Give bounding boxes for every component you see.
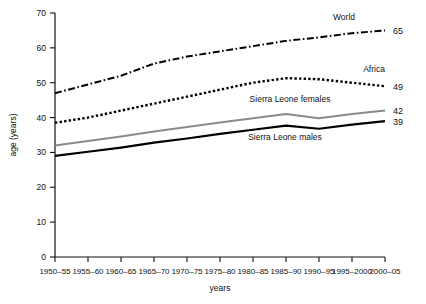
series-label-africa: Africa [363, 64, 385, 74]
y-tick-label: 30 [37, 147, 47, 157]
y-tick-label: 70 [37, 8, 47, 18]
y-axis-title: age (years) [8, 113, 18, 156]
x-tick-label: 1965–70 [138, 267, 170, 276]
y-tick-label: 10 [37, 217, 47, 227]
x-tick-label: 1950–55 [39, 267, 71, 276]
x-tick-label: 2000–05 [369, 267, 401, 276]
end-value-sierra-leone-males: 39 [393, 117, 403, 127]
x-tick-label: 1990–95 [303, 267, 335, 276]
x-tick-label: 1955–60 [72, 267, 104, 276]
y-tick-label: 40 [37, 113, 47, 123]
y-tick-label: 0 [41, 252, 46, 262]
y-tick-label: 20 [37, 182, 47, 192]
end-value-world: 65 [393, 26, 403, 36]
end-value-sierra-leone-females: 42 [393, 106, 403, 116]
y-tick-label: 50 [37, 78, 47, 88]
series-label-sierra-leone-females: Sierra Leone females [250, 94, 331, 104]
x-tick-label: 1995–2000 [332, 267, 373, 276]
x-tick-label: 1985–90 [270, 267, 302, 276]
series-line-world [55, 30, 385, 93]
series-label-sierra-leone-males: Sierra Leone males [248, 132, 322, 142]
x-tick-label: 1980–85 [237, 267, 269, 276]
chart-canvas: 0102030405060701950–551955–601960–651965… [0, 0, 426, 304]
x-axis-title: years [210, 283, 231, 293]
series-label-world: World [333, 12, 355, 22]
y-tick-label: 60 [37, 43, 47, 53]
x-tick-label: 1960–65 [105, 267, 137, 276]
x-tick-label: 1975–80 [204, 267, 236, 276]
x-tick-label: 1970–75 [171, 267, 203, 276]
life-expectancy-line-chart: 0102030405060701950–551955–601960–651965… [0, 0, 426, 304]
series-line-sierra-leone-females [55, 111, 385, 146]
end-value-africa: 49 [393, 82, 403, 92]
